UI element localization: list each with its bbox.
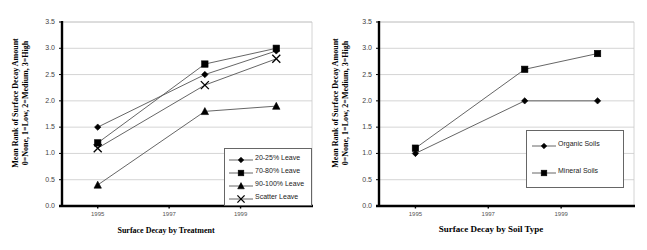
marker-diamond [541, 143, 547, 149]
y-tick-label: 2.0 [354, 97, 372, 104]
y-tick-label: 0.5 [354, 176, 372, 183]
y-tick-label: 2.0 [37, 97, 55, 104]
y-tick-label: 2.5 [354, 71, 372, 78]
y-tick-label: 1.5 [354, 123, 372, 130]
marker-square [412, 145, 418, 151]
chart-panel-treatment: Mean Rank of Surface Decay Amount 0=None… [0, 0, 323, 250]
legend-item[interactable]: Mineral Soils [531, 164, 619, 177]
chart-panel-soiltype: Mean Rank of Surface Decay Amount 0=None… [323, 0, 647, 250]
marker-triangle [94, 181, 101, 188]
marker-diamond [202, 71, 208, 77]
y-tick-label: 0.0 [37, 202, 55, 209]
legend-item[interactable]: Scatter Leave [228, 190, 308, 203]
marker-square [202, 61, 208, 67]
y-tick-label: 3.0 [354, 44, 372, 51]
legend-key-triangle-icon [228, 178, 254, 190]
marker-square [541, 170, 547, 176]
y-tick-label: 0.0 [354, 202, 372, 209]
legend-label: Organic Soils [557, 140, 600, 147]
marker-square [273, 45, 279, 51]
y-tick-label: 0.5 [37, 176, 55, 183]
series-line [98, 59, 277, 148]
marker-square [522, 66, 528, 72]
x-tick-label: 1997 [473, 211, 503, 217]
x-tick-label: 1995 [400, 211, 430, 217]
legend-label: 20-25% Leave [254, 154, 300, 161]
y-tick-label: 3.5 [354, 18, 372, 25]
marker-x [201, 81, 209, 89]
legend-label: Scatter Leave [254, 193, 298, 200]
x-axis-title-right: Surface Decay by Soil Type [371, 224, 611, 234]
x-tick-label: 1997 [154, 211, 184, 217]
marker-diamond [594, 98, 600, 104]
legend-key-x-icon [228, 191, 254, 203]
y-tick-label: 2.5 [37, 71, 55, 78]
x-tick-label: 1999 [226, 211, 256, 217]
legend-item[interactable]: 20-25% Leave [228, 151, 308, 164]
legend-label: 90-100% Leave [254, 180, 304, 187]
legend-soiltype[interactable]: Organic SoilsMineral Soils [526, 130, 624, 188]
legend-key-square-icon [531, 165, 557, 177]
marker-x [272, 55, 280, 63]
marker-square [238, 170, 244, 176]
y-tick-label: 1.0 [37, 149, 55, 156]
marker-diamond [238, 157, 244, 163]
y-tick-label: 3.5 [37, 18, 55, 25]
marker-square [594, 50, 600, 56]
legend-treatment[interactable]: 20-25% Leave70-80% Leave90-100% LeaveSca… [224, 148, 312, 206]
y-tick-label: 1.0 [354, 149, 372, 156]
marker-diamond [522, 98, 528, 104]
x-tick-label: 1995 [83, 211, 113, 217]
marker-diamond [95, 124, 101, 130]
legend-key-diamond-icon [228, 152, 254, 164]
legend-item[interactable]: 90-100% Leave [228, 177, 308, 190]
figure-container: Mean Rank of Surface Decay Amount 0=None… [0, 0, 647, 250]
legend-key-diamond-icon [531, 138, 557, 150]
legend-label: 70-80% Leave [254, 167, 300, 174]
legend-label: Mineral Soils [557, 167, 598, 174]
legend-item[interactable]: Organic Soils [531, 137, 619, 150]
y-tick-label: 1.5 [37, 123, 55, 130]
x-tick-label: 1999 [546, 211, 576, 217]
marker-triangle [273, 102, 280, 109]
series-line [98, 51, 277, 127]
y-tick-label: 3.0 [37, 44, 55, 51]
x-axis-title-left: Surface Decay by Treatment [52, 226, 280, 235]
legend-key-square-icon [228, 165, 254, 177]
legend-item[interactable]: 70-80% Leave [228, 164, 308, 177]
